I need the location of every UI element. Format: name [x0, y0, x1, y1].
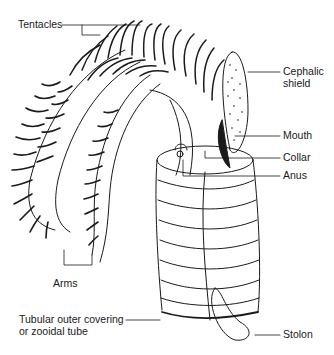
label-arms: Arms: [53, 278, 78, 290]
label-cephalic-shield-line1: Cephalic: [283, 66, 324, 78]
cephalic-shield: [223, 52, 248, 153]
label-mouth: Mouth: [283, 130, 312, 142]
tentacle-crown: [70, 21, 224, 100]
mouth-region: [218, 120, 230, 168]
label-tentacles: Tentacles: [18, 19, 62, 31]
shield-stipple: [227, 64, 243, 141]
right-arm: [84, 75, 160, 262]
left-arm: [12, 50, 140, 238]
label-cephalic-shield-line2: shield: [283, 78, 310, 90]
label-tube-line1: Tubular outer covering: [19, 314, 124, 326]
label-collar: Collar: [283, 152, 310, 164]
zooidal-tube: [156, 144, 260, 320]
label-tube-line2: or zooidal tube: [19, 326, 88, 338]
label-stolon: Stolon: [283, 329, 313, 341]
label-anus: Anus: [283, 170, 307, 182]
